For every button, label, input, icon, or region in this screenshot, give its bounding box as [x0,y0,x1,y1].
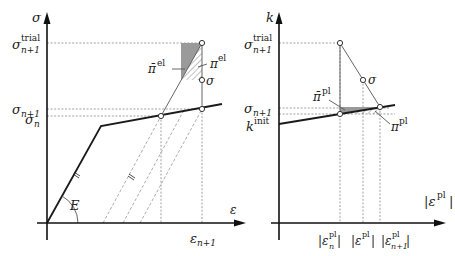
svg-text:n+1: n+1 [21,45,40,55]
tick-k-trial: σ trial n+1 [244,33,272,55]
tick-eps-n1: ε n+1 [190,231,216,248]
svg-text:init: init [254,116,270,126]
svg-text:|: | [371,234,375,248]
svg-text:pl: pl [329,230,337,239]
svg-text:π̄: π̄ [147,62,157,76]
k-sigma-point-label: σ [368,73,377,87]
pi-el-label: π el [209,53,226,71]
svg-text:pl: pl [362,230,370,239]
unload-line-3 [140,109,202,223]
svg-text:el: el [157,58,165,68]
tick-epl-n: |ε pl n | [318,230,341,251]
tick-epl-n1: |ε pl n+1 | [381,230,410,251]
svg-text:k: k [246,119,254,134]
svg-text:|: | [449,194,453,209]
x-axis-label: ε [230,203,236,217]
svg-text:n+1: n+1 [253,45,272,55]
left-plot: E σ ε σ trial n+1 σ n+1 σ n ε n+1 [12,10,246,248]
tick-sigma-trial: σ trial n+1 [12,33,40,55]
svg-text:pl: pl [437,190,446,200]
svg-text:|ε: |ε [351,234,361,248]
return-mapping-diagram: E σ ε σ trial n+1 σ n+1 σ n ε n+1 [0,0,455,256]
tick-epl: |ε pl | [351,230,375,248]
svg-text:|ε: |ε [381,234,391,248]
svg-text:n: n [34,119,40,129]
point-k-trial [337,40,342,45]
point-sigma [199,77,204,82]
svg-text:|: | [406,234,410,248]
tick-k-init: k init [246,116,270,134]
k-axis-label: k [266,10,274,25]
modulus-label: E [69,198,80,213]
point-n1 [199,106,204,111]
pi-bar-pl-label: π̄ pl [312,86,331,104]
svg-text:pl: pl [322,86,331,96]
svg-text:π̄: π̄ [312,90,322,104]
pi-pl-label: π pl [390,116,408,134]
svg-text:pl: pl [399,116,408,126]
svg-text:|: | [337,234,341,248]
svg-text:|ε: |ε [424,194,435,209]
svg-text:n: n [329,242,334,251]
point-trial [199,40,204,45]
svg-text:trial: trial [253,33,272,43]
svg-text:trial: trial [21,33,40,43]
point-n [158,113,163,118]
svg-text:el: el [218,53,226,63]
point-k-n1 [377,104,382,109]
point-k-sigma [360,77,365,82]
pi-bar-el-label: π̄ el [147,58,165,76]
y-axis-label: σ [32,10,42,25]
sigma-point-label: σ [206,74,215,88]
epl-axis-label: |ε pl | [424,190,453,209]
svg-text:pl: pl [392,230,400,239]
point-k-n [337,111,342,116]
svg-text:ε: ε [190,231,197,246]
svg-text:|ε: |ε [318,234,328,248]
unload-line-2 [123,112,183,223]
svg-text:n+1: n+1 [197,238,216,248]
right-plot: k |ε pl | σ trial n+1 σ n+1 k init |ε pl… [244,10,453,251]
